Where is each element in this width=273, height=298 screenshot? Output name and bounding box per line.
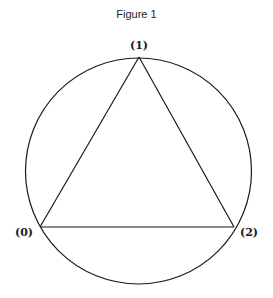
vertex-label-2: (2) [240,226,258,239]
vertex-label-1: (1) [130,39,148,52]
triangle-edge-0-1 [40,57,139,227]
vertex-label-0: (0) [15,226,33,239]
diagram-canvas: (0) (1) (2) [0,0,273,298]
circumscribed-circle [26,58,252,284]
triangle-edge-1-2 [139,57,234,227]
